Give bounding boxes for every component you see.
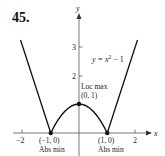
coord-label-left-min: (−1, 0) — [39, 136, 60, 145]
point-loc-max — [77, 102, 81, 106]
x-axis-arrow-icon — [146, 131, 152, 136]
y-tick-label-3: 3 — [72, 43, 76, 52]
x-axis: x −2 2 — [13, 129, 158, 145]
annotation-right-min: Abs min — [98, 145, 124, 154]
y-axis-label: y — [75, 4, 80, 13]
graph-figure: 45. x −2 2 y 3 2 y = x2 − 1 (−1, 0) Abs … — [0, 0, 165, 156]
coord-label-right-min: (1, 0) — [98, 136, 115, 145]
point-abs-min-left — [49, 131, 53, 135]
function-label: y = x2 − 1 — [91, 54, 124, 64]
x-tick-label-2: 2 — [133, 136, 137, 145]
x-axis-label: x — [153, 129, 158, 138]
point-abs-min-right — [105, 131, 109, 135]
y-axis-arrow-icon — [77, 13, 82, 19]
annotation-loc-max: Loc max — [81, 82, 108, 91]
y-tick-label-2: 2 — [72, 72, 76, 81]
x-tick-label-neg2: −2 — [16, 136, 25, 145]
coord-label-loc-max: (0, 1) — [81, 91, 98, 100]
problem-number: 45. — [12, 10, 30, 25]
annotation-left-min: Abs min — [39, 145, 65, 154]
